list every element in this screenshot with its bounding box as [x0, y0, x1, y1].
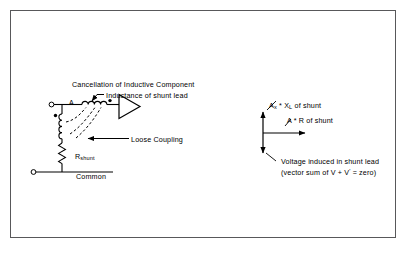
vector-label-resistive: A * R of shunt — [287, 116, 333, 125]
shunt-inductor-coil — [59, 114, 62, 139]
vector-caption-line2-a: (vector sum of V + V — [281, 168, 349, 177]
vector-caption-line2: (vector sum of V + V' = zero) — [281, 167, 376, 177]
circuit-title: Cancellation of Inductive Component — [72, 80, 195, 89]
terminal-top-circle — [49, 102, 54, 107]
vector-label-reactive-mid: * X — [277, 101, 289, 110]
figure-canvas: Cancellation of Inductive Component A In… — [0, 0, 407, 259]
leader-induced-label — [266, 153, 276, 161]
node-label-a: A — [69, 98, 74, 107]
terminal-bottom-circle — [31, 170, 36, 175]
zigzag-resistor — [59, 143, 66, 164]
vector-label-reactive-tail: of shunt — [292, 101, 321, 110]
dashed-coupling-line-1 — [66, 108, 86, 123]
callout-inductance-of-shunt-lead: Inductance of shunt lead — [106, 91, 188, 100]
coupling-dot-shunt — [54, 114, 57, 117]
vector-caption-line1: Voltage induced in shunt lead — [281, 157, 379, 166]
diagram-vector-graphics — [0, 0, 407, 259]
vector-label-reactive: Ax * XL of shunt — [269, 101, 321, 112]
dashed-coupling-line-3 — [76, 108, 101, 139]
resistor-label-rshunt: Rshunt — [75, 152, 95, 163]
callout-loose-coupling: Loose Coupling — [131, 135, 183, 144]
common-rail-label: Common — [76, 172, 106, 181]
leader-inductance — [92, 95, 104, 102]
resistor-label-subscript: shunt — [80, 155, 94, 161]
series-inductor-coil — [82, 101, 107, 104]
vector-caption-line2-b: = zero) — [351, 168, 377, 177]
